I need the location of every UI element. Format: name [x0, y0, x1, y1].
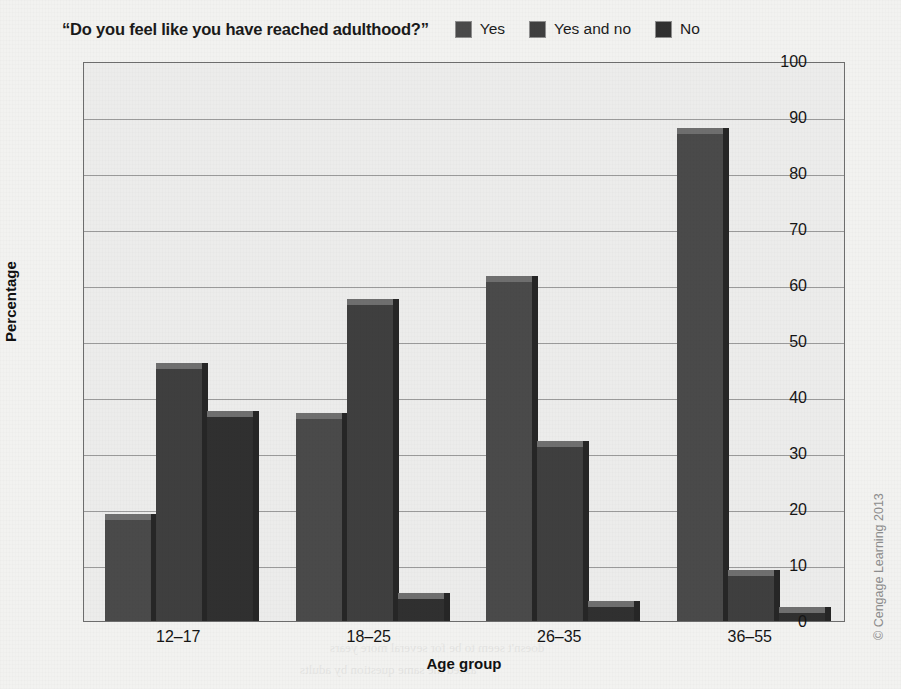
y-tick-label: 50 — [747, 333, 807, 351]
bar-side-face — [634, 601, 640, 621]
bar — [347, 305, 393, 621]
y-tick-label: 100 — [747, 53, 807, 71]
legend-label-no: No — [680, 20, 700, 38]
y-tick-label: 30 — [747, 445, 807, 463]
bar — [207, 417, 253, 621]
x-tick-label: 18–25 — [347, 628, 392, 646]
bar — [105, 520, 151, 621]
figure-bar-chart-adulthood: FemalePercent of populationin the United… — [0, 0, 901, 689]
legend-label-yes-and-no: Yes and no — [554, 20, 631, 38]
y-tick-label: 20 — [747, 501, 807, 519]
y-tick-label: 10 — [747, 557, 807, 575]
bar — [486, 282, 532, 621]
legend-label-yes: Yes — [480, 20, 505, 38]
y-tick-label: 60 — [747, 277, 807, 295]
chart-title: “Do you feel like you have reached adult… — [62, 20, 429, 39]
bar-side-face — [444, 593, 450, 621]
bar — [296, 419, 342, 621]
x-tick-label: 12–17 — [156, 628, 201, 646]
legend-swatch-yes — [455, 21, 472, 38]
bar-side-face — [393, 299, 399, 621]
bar-front-face — [398, 599, 444, 621]
gridline — [84, 343, 844, 344]
legend-item-yes-and-no: Yes and no — [529, 20, 631, 38]
bar — [588, 607, 634, 621]
legend-swatch-no — [655, 21, 672, 38]
gridline — [84, 231, 844, 232]
gridline — [84, 287, 844, 288]
gridline — [84, 63, 844, 64]
chart-header: “Do you feel like you have reached adult… — [0, 14, 901, 44]
bar-front-face — [156, 369, 202, 621]
chart-legend: Yes Yes and no No — [455, 20, 724, 38]
bar-front-face — [105, 520, 151, 621]
y-tick-label: 70 — [747, 221, 807, 239]
y-tick-label: 80 — [747, 165, 807, 183]
bar-side-face — [583, 441, 589, 621]
bar — [537, 447, 583, 621]
x-axis-label: Age group — [83, 655, 845, 672]
bar-side-face — [825, 607, 831, 621]
copyright-credit: © Cengage Learning 2013 — [872, 493, 886, 640]
bar-front-face — [677, 134, 723, 621]
bar-front-face — [537, 447, 583, 621]
bar — [677, 134, 723, 621]
x-tick-label: 26–35 — [537, 628, 582, 646]
x-tick-label: 36–55 — [728, 628, 773, 646]
y-axis-label: Percentage — [2, 261, 19, 342]
gridline — [84, 175, 844, 176]
plot-wrapper: Percentage Age group 0102030405060708090… — [0, 0, 901, 689]
bar-front-face — [207, 417, 253, 621]
legend-item-yes: Yes — [455, 20, 505, 38]
bar-front-face — [588, 607, 634, 621]
legend-item-no: No — [655, 20, 700, 38]
plot-area — [83, 62, 845, 622]
bar — [398, 599, 444, 621]
y-tick-label: 40 — [747, 389, 807, 407]
bar — [156, 369, 202, 621]
gridline — [84, 119, 844, 120]
bar-front-face — [486, 282, 532, 621]
bar-front-face — [296, 419, 342, 621]
legend-swatch-yes-and-no — [529, 21, 546, 38]
bar-front-face — [347, 305, 393, 621]
bar-side-face — [723, 128, 729, 621]
y-tick-label: 90 — [747, 109, 807, 127]
bar-side-face — [253, 411, 259, 621]
